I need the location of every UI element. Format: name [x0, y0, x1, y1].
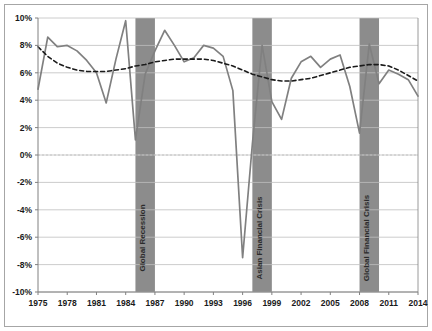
- y-axis-tick-label: -2%: [17, 177, 33, 187]
- shaded-band-label: Global Recession: [138, 204, 147, 271]
- y-axis-tick-label: 2%: [20, 123, 33, 133]
- y-axis-tick-label: 10%: [15, 13, 32, 23]
- x-axis-tick-label: 2011: [380, 298, 399, 308]
- y-axis-tick-label: -4%: [17, 205, 33, 215]
- chart-frame: Global RecessionAsian Financial CrisisGl…: [0, 0, 432, 331]
- x-axis-tick-label: 1981: [87, 298, 106, 308]
- x-axis-tick-label: 1999: [262, 298, 281, 308]
- x-axis-tick-label: 2002: [292, 298, 311, 308]
- growth-rate-line-chart: Global RecessionAsian Financial CrisisGl…: [0, 0, 432, 331]
- x-axis-tick-label: 2008: [350, 298, 369, 308]
- x-axis-tick-label: 1978: [58, 298, 77, 308]
- x-axis-tick-label: 1984: [116, 298, 135, 308]
- y-axis-tick-label: -8%: [17, 260, 33, 270]
- x-axis-tick-label: 1993: [204, 298, 223, 308]
- y-axis-tick-label: 8%: [20, 40, 33, 50]
- x-axis-tick-label: 1996: [233, 298, 252, 308]
- y-axis-tick-label: 6%: [20, 68, 33, 78]
- x-axis-tick-label: 1975: [29, 298, 48, 308]
- y-axis-tick-label: 4%: [20, 95, 33, 105]
- x-axis-tick-label: 2005: [321, 298, 340, 308]
- shaded-band-label: Asian Financial Crisis: [255, 196, 264, 280]
- shaded-band-label: Global Financial Crisis: [362, 194, 371, 281]
- y-axis-tick-label: 0%: [20, 150, 33, 160]
- x-axis-tick-label: 1990: [175, 298, 194, 308]
- y-axis-tick-label: -10%: [12, 287, 32, 297]
- y-axis-tick-label: -6%: [17, 232, 33, 242]
- x-axis-tick-label: 1987: [145, 298, 164, 308]
- x-axis-tick-label: 2014: [409, 298, 428, 308]
